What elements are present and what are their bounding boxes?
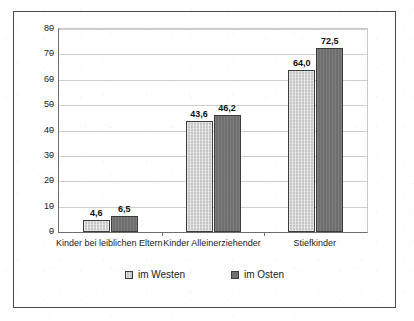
plot-area: 4,66,543,646,264,072,5	[58, 28, 368, 233]
y-axis-tick-mark	[50, 130, 54, 131]
y-axis-tick-mark	[50, 53, 54, 54]
x-axis: Kinder bei leiblichen ElternKinder Allei…	[58, 238, 368, 252]
legend-swatch-ost-icon	[231, 271, 239, 279]
bar-west-2: 64,0	[288, 70, 315, 232]
bar-ost-1: 46,2	[214, 115, 241, 232]
y-axis: 01020304050607080	[22, 28, 54, 233]
bar-value-label: 72,5	[321, 36, 339, 46]
y-axis-tick-mark	[50, 206, 54, 207]
y-axis-tick-mark	[50, 79, 54, 80]
y-axis-tick-mark	[50, 155, 54, 156]
x-axis-tick-mark	[264, 232, 265, 236]
y-axis-tick-mark	[50, 28, 54, 29]
x-axis-category-label: Stiefkinder	[293, 238, 336, 249]
bar-value-label: 4,6	[90, 208, 103, 218]
bar-ost-2: 72,5	[316, 48, 343, 232]
y-axis-tick-mark	[50, 104, 54, 105]
legend-swatch-west-icon	[125, 271, 133, 279]
y-axis-tick-mark	[50, 231, 54, 232]
bar-value-label: 46,2	[218, 103, 236, 113]
chart-legend: im Westenim Osten	[14, 269, 395, 280]
gridline	[59, 232, 367, 233]
legend-item-west[interactable]: im Westen	[125, 269, 185, 280]
bar-value-label: 6,5	[118, 204, 131, 214]
x-axis-tick-mark	[162, 232, 163, 236]
bar-west-0: 4,6	[83, 220, 110, 232]
bar-west-1: 43,6	[186, 121, 213, 232]
legend-item-ost[interactable]: im Osten	[231, 269, 284, 280]
gridline	[59, 29, 367, 30]
legend-item-label: im Osten	[244, 269, 284, 280]
x-axis-category-label: Kinder bei leiblichen Eltern	[56, 238, 163, 249]
bar-ost-0: 6,5	[111, 216, 138, 232]
x-axis-category-label: Kinder Alleinerziehender	[163, 238, 261, 249]
y-axis-tick-mark	[50, 180, 54, 181]
bar-value-label: 43,6	[190, 109, 208, 119]
chart-frame: 01020304050607080 4,66,543,646,264,072,5…	[13, 11, 396, 308]
bar-value-label: 64,0	[293, 58, 311, 68]
legend-item-label: im Westen	[138, 269, 185, 280]
